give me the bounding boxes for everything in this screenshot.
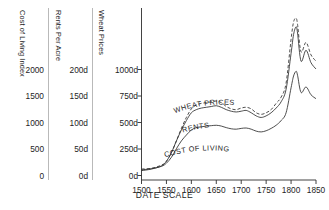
chart-figure: Cost of Living Index 2000 1500 1000 500 … bbox=[0, 0, 329, 210]
series-label-wheat: WHEAT PRICES bbox=[173, 98, 236, 116]
series-label-cost-text: COST OF LIVING bbox=[163, 143, 230, 159]
plot-area: WHEAT PRICES RENTS COST OF LIVING bbox=[0, 0, 329, 210]
x-axis-title: DATE SCALE bbox=[0, 190, 329, 200]
y-tick-marks bbox=[138, 70, 142, 176]
series-label-cost-of-living: COST OF LIVING bbox=[163, 143, 230, 159]
x-tick-marks bbox=[142, 180, 317, 184]
series-label-wheat-text: WHEAT PRICES bbox=[173, 98, 236, 116]
